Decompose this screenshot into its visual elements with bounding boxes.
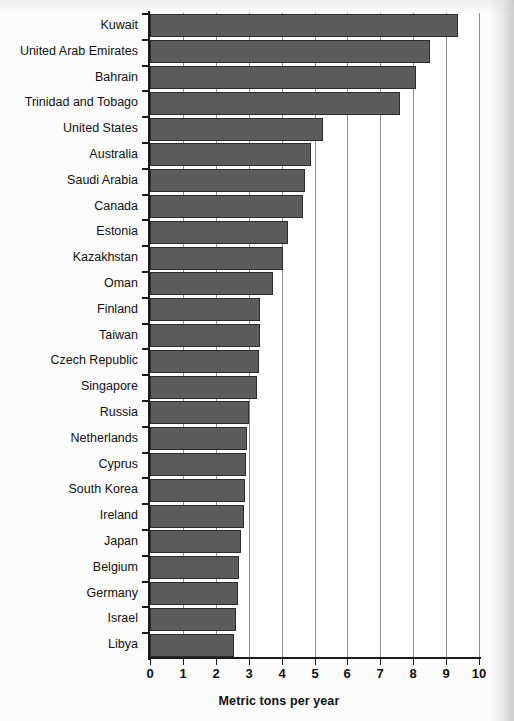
y-axis-tick	[142, 477, 149, 479]
x-axis-tick	[249, 659, 250, 665]
bar	[150, 143, 311, 166]
bar	[150, 221, 288, 244]
y-axis-tick	[142, 219, 149, 221]
x-axis-tick	[413, 659, 414, 665]
y-axis-tick	[142, 323, 149, 325]
y-axis-label: United States	[0, 121, 138, 135]
y-axis-label: Libya	[0, 637, 138, 651]
bar	[150, 272, 273, 295]
x-axis-tick	[479, 659, 480, 665]
x-axis-tick-label: 5	[300, 666, 330, 681]
x-axis-tick-label: 7	[365, 666, 395, 681]
y-axis-label: Australia	[0, 147, 138, 161]
y-axis-tick	[142, 632, 149, 634]
y-axis-line	[148, 11, 150, 660]
y-axis-tick	[142, 348, 149, 350]
y-axis-tick	[142, 116, 149, 118]
y-axis-tick	[142, 297, 149, 299]
bar	[150, 530, 241, 553]
bar	[150, 66, 416, 89]
y-axis-label: Russia	[0, 405, 138, 419]
y-axis-label: Canada	[0, 199, 138, 213]
x-axis-tick-label: 0	[135, 666, 165, 681]
y-axis-label: Singapore	[0, 379, 138, 393]
y-axis-label: Israel	[0, 611, 138, 625]
x-axis-tick-label: 3	[234, 666, 264, 681]
bar	[150, 479, 245, 502]
y-axis-tick	[142, 606, 149, 608]
bar	[150, 401, 249, 424]
bar	[150, 118, 323, 141]
x-axis-tick	[150, 659, 151, 665]
x-axis-tick-label: 10	[464, 666, 494, 681]
y-axis-tick	[142, 168, 149, 170]
x-axis-tick	[183, 659, 184, 665]
x-axis-tick-label: 1	[168, 666, 198, 681]
y-axis-label: United Arab Emirates	[0, 44, 138, 58]
y-axis-label: Kuwait	[0, 18, 138, 32]
bar	[150, 453, 246, 476]
x-axis-tick	[446, 659, 447, 665]
x-axis-tick	[347, 659, 348, 665]
y-axis-label: Trinidad and Tobago	[0, 95, 138, 109]
y-axis-tick	[142, 65, 149, 67]
bar	[150, 556, 239, 579]
y-axis-tick	[142, 374, 149, 376]
y-axis-label: South Korea	[0, 482, 138, 496]
x-axis-tick-label: 2	[201, 666, 231, 681]
bar-chart: KuwaitUnited Arab EmiratesBahrainTrinida…	[0, 0, 514, 721]
x-axis-title: Metric tons per year	[0, 694, 514, 708]
bar	[150, 195, 303, 218]
bar	[150, 40, 430, 63]
y-axis-tick	[142, 400, 149, 402]
y-axis-label: Finland	[0, 302, 138, 316]
y-axis-tick	[142, 271, 149, 273]
scan-edge-top	[0, 0, 514, 12]
y-axis-label: Ireland	[0, 508, 138, 522]
y-axis-tick	[142, 142, 149, 144]
y-axis-tick	[142, 503, 149, 505]
y-axis-tick	[142, 13, 149, 15]
gridline-8	[413, 13, 414, 658]
plot-area	[150, 13, 479, 658]
gridline-9	[446, 13, 447, 658]
y-axis-label: Saudi Arabia	[0, 173, 138, 187]
bar	[150, 376, 257, 399]
x-axis-tick-label: 6	[332, 666, 362, 681]
y-axis-label: Belgium	[0, 560, 138, 574]
x-axis-tick-label: 4	[267, 666, 297, 681]
x-axis-tick-label: 9	[431, 666, 461, 681]
y-axis-label: Czech Republic	[0, 353, 138, 367]
x-axis-tick	[216, 659, 217, 665]
bar	[150, 634, 234, 657]
y-axis-label: Cyprus	[0, 457, 138, 471]
y-axis-tick	[142, 452, 149, 454]
bar	[150, 92, 400, 115]
y-axis-tick	[142, 555, 149, 557]
y-axis-tick	[142, 90, 149, 92]
bar	[150, 169, 305, 192]
y-axis-label: Kazakhstan	[0, 250, 138, 264]
y-axis-label: Oman	[0, 276, 138, 290]
bar	[150, 247, 283, 270]
scan-edge-right	[490, 0, 514, 721]
gridline-10	[479, 13, 480, 658]
bar	[150, 608, 236, 631]
bar	[150, 505, 244, 528]
bar	[150, 582, 238, 605]
bar	[150, 350, 259, 373]
y-axis-tick	[142, 581, 149, 583]
bar	[150, 324, 260, 347]
y-axis-label: Netherlands	[0, 431, 138, 445]
x-axis-tick	[282, 659, 283, 665]
y-axis-label: Estonia	[0, 224, 138, 238]
x-axis-tick	[380, 659, 381, 665]
x-axis-title-text: Metric tons per year	[219, 694, 340, 708]
x-axis-tick-label: 8	[398, 666, 428, 681]
y-axis-label: Taiwan	[0, 328, 138, 342]
y-axis-label: Japan	[0, 534, 138, 548]
y-axis-tick	[142, 194, 149, 196]
bar	[150, 14, 458, 37]
y-axis-tick	[142, 426, 149, 428]
y-axis-label: Bahrain	[0, 70, 138, 84]
